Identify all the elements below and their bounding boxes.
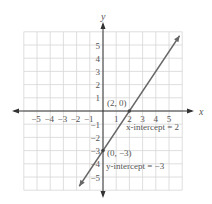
svg-text:1: 1: [96, 93, 101, 103]
svg-text:−4: −4: [44, 114, 54, 124]
point-label-x-intercept: (2, 0): [107, 98, 127, 108]
x-intercept-annotation: x-intercept = 2: [126, 122, 179, 132]
point-label-y-intercept: (0, −3): [107, 148, 132, 158]
svg-text:4: 4: [96, 54, 101, 64]
y-axis-label: y: [100, 11, 106, 22]
svg-text:3: 3: [96, 67, 101, 77]
svg-text:5: 5: [96, 41, 101, 51]
y-intercept-annotation: y-intercept = −3: [106, 161, 165, 171]
x-axis-label: x: [198, 106, 204, 117]
svg-text:−3: −3: [90, 146, 100, 156]
svg-text:2: 2: [96, 80, 101, 90]
svg-text:−3: −3: [58, 114, 68, 124]
svg-text:1: 1: [114, 114, 119, 124]
svg-text:−1: −1: [90, 120, 100, 130]
svg-text:−5: −5: [31, 114, 41, 124]
svg-text:−2: −2: [90, 133, 100, 143]
line-graph: −5−4−3−2−11234554321−1−2−3−4−5 x y (2, 0…: [0, 0, 212, 204]
svg-text:−5: −5: [90, 173, 100, 183]
svg-text:−2: −2: [71, 114, 81, 124]
axes: [12, 22, 194, 198]
